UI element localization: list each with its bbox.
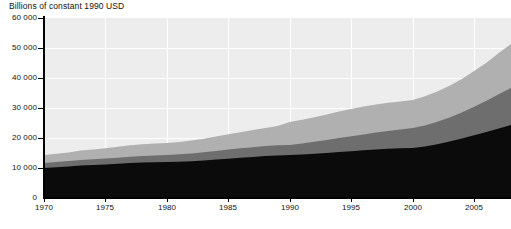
x-axis-label: 1995 xyxy=(342,203,360,212)
y-axis-label: 0 xyxy=(32,193,37,202)
x-axis-label: 1980 xyxy=(158,203,176,212)
x-axis-tick xyxy=(474,198,475,202)
chart-title: Billions of constant 1990 USD xyxy=(9,1,124,11)
x-axis-tick xyxy=(413,198,414,202)
x-axis-label: 1975 xyxy=(96,203,114,212)
x-axis-tick xyxy=(167,198,168,202)
x-axis-label: 1985 xyxy=(219,203,237,212)
x-axis-tick xyxy=(290,198,291,202)
x-axis-label: 2000 xyxy=(404,203,422,212)
x-axis-label: 2005 xyxy=(465,203,483,212)
y-axis-tick xyxy=(38,18,44,19)
y-axis-label: 20 000 xyxy=(12,133,37,142)
y-axis-tick xyxy=(38,108,44,109)
x-axis-line xyxy=(43,197,511,199)
x-axis-label: 1990 xyxy=(281,203,299,212)
y-axis-label: 40 000 xyxy=(12,73,37,82)
y-axis-label: 50 000 xyxy=(12,43,37,52)
x-axis-tick xyxy=(228,198,229,202)
chart-figure: Billions of constant 1990 USD 010 00020 … xyxy=(0,0,511,229)
plot-area xyxy=(44,18,511,198)
x-axis-tick xyxy=(44,198,45,202)
y-axis-tick xyxy=(38,48,44,49)
y-axis-label: 30 000 xyxy=(12,103,37,112)
x-axis-label: 1970 xyxy=(35,203,53,212)
x-axis-tick xyxy=(351,198,352,202)
y-axis-tick xyxy=(38,168,44,169)
stacked-area-series xyxy=(44,18,511,198)
y-axis-tick xyxy=(38,78,44,79)
x-axis-tick xyxy=(105,198,106,202)
y-axis-label: 60 000 xyxy=(12,13,37,22)
y-axis-label: 10 000 xyxy=(12,163,37,172)
y-axis-tick xyxy=(38,138,44,139)
